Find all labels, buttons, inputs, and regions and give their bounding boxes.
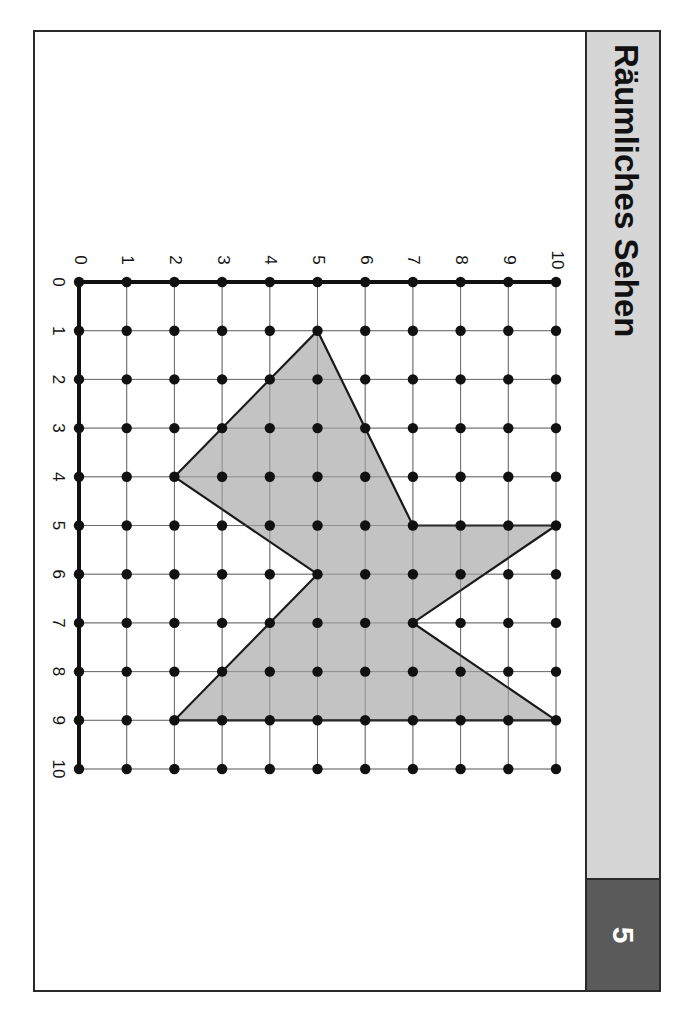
grid-dot	[122, 666, 132, 676]
grid-dot	[122, 423, 132, 433]
grid-dot	[503, 569, 513, 579]
grid-dot	[74, 618, 84, 628]
grid-dot	[265, 326, 275, 336]
grid-dot	[122, 326, 132, 336]
grid-dot	[169, 520, 179, 530]
grid-dot	[503, 374, 513, 384]
grid-dot	[217, 618, 227, 628]
grid-dot	[408, 715, 418, 725]
grid-dot	[312, 472, 322, 482]
grid-dot	[455, 423, 465, 433]
grid-dot	[122, 569, 132, 579]
grid-dot	[503, 423, 513, 433]
grid-dot	[360, 764, 370, 774]
grid-dot	[360, 520, 370, 530]
grid-dot	[217, 374, 227, 384]
geoboard-grid: 012345678910012345678910	[0, 0, 687, 1010]
grid-dot	[265, 277, 275, 287]
grid-dot	[169, 374, 179, 384]
left-axis-label: 5	[49, 521, 68, 530]
top-axis-label: 9	[500, 255, 519, 264]
grid-dot	[551, 569, 561, 579]
grid-dot	[74, 423, 84, 433]
grid-dot	[217, 569, 227, 579]
grid-dot	[74, 666, 84, 676]
left-axis-label: 7	[49, 618, 68, 627]
grid-dot	[74, 277, 84, 287]
grid-dot	[217, 472, 227, 482]
grid-dot	[312, 326, 322, 336]
grid-dot	[265, 472, 275, 482]
grid-dot	[169, 277, 179, 287]
left-axis-label: 2	[49, 375, 68, 384]
grid-dot	[312, 277, 322, 287]
grid-dot	[265, 764, 275, 774]
grid-dot	[265, 666, 275, 676]
grid-dot	[455, 520, 465, 530]
left-axis-label: 6	[49, 569, 68, 578]
grid-dot	[217, 764, 227, 774]
left-axis-label: 3	[49, 423, 68, 432]
grid-dot	[455, 569, 465, 579]
left-axis-label: 10	[49, 760, 68, 779]
grid-dot	[408, 374, 418, 384]
grid-dot	[169, 715, 179, 725]
grid-dot	[503, 618, 513, 628]
grid-dot	[408, 764, 418, 774]
grid-dot	[312, 520, 322, 530]
top-axis-label: 3	[214, 255, 233, 264]
grid-dot	[455, 326, 465, 336]
grid-dot	[360, 715, 370, 725]
left-axis-label: 8	[49, 667, 68, 676]
grid-dot	[455, 618, 465, 628]
grid-dot	[312, 764, 322, 774]
grid-dot	[360, 569, 370, 579]
grid-dot	[360, 423, 370, 433]
grid-dot	[551, 666, 561, 676]
grid-dot	[455, 715, 465, 725]
grid-dot	[217, 520, 227, 530]
grid-dot	[265, 715, 275, 725]
grid-dot	[122, 618, 132, 628]
top-axis-label: 4	[261, 255, 280, 264]
grid-dot	[503, 764, 513, 774]
grid-dot	[551, 618, 561, 628]
grid-dot	[551, 423, 561, 433]
grid-dot	[503, 277, 513, 287]
grid-dot	[455, 764, 465, 774]
grid-dot	[312, 569, 322, 579]
grid-dot	[74, 764, 84, 774]
grid-dot	[122, 764, 132, 774]
top-axis-label: 5	[309, 255, 328, 264]
grid-dot	[169, 618, 179, 628]
grid-dot	[169, 666, 179, 676]
grid-dot	[408, 277, 418, 287]
grid-dot	[312, 618, 322, 628]
top-axis-label: 2	[166, 255, 185, 264]
grid-dot	[408, 520, 418, 530]
grid-dot	[360, 666, 370, 676]
top-axis-label: 10	[548, 251, 567, 270]
grid-dot	[169, 472, 179, 482]
grid-dot	[455, 374, 465, 384]
grid-dot	[551, 520, 561, 530]
grid-dot	[408, 423, 418, 433]
grid-dot	[217, 715, 227, 725]
left-axis-label: 1	[49, 326, 68, 335]
grid-dot	[312, 715, 322, 725]
grid-dot	[360, 618, 370, 628]
grid-dot	[503, 666, 513, 676]
grid-dot	[455, 277, 465, 287]
grid-dot	[312, 423, 322, 433]
grid-dot	[169, 423, 179, 433]
grid-dot	[265, 618, 275, 628]
top-axis-label: 6	[357, 255, 376, 264]
top-axis-label: 0	[71, 255, 90, 264]
grid-dot	[551, 277, 561, 287]
grid-dot	[169, 326, 179, 336]
grid-dot	[360, 326, 370, 336]
grid-dot	[122, 374, 132, 384]
grid-dot	[551, 764, 561, 774]
grid-dot	[408, 326, 418, 336]
grid-dot	[408, 472, 418, 482]
